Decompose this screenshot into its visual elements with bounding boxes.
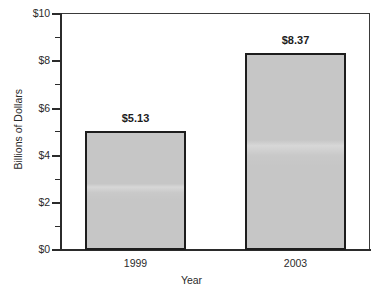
y-axis-line [60, 13, 62, 251]
y-axis-tick-label-10: $10 [33, 8, 50, 19]
y-axis-title: Billions of Dollars [13, 49, 24, 209]
y-axis-minor-tick-3 [55, 179, 61, 180]
y-axis-major-tick-8 [52, 60, 61, 62]
y-axis-tick-label-0: $0 [39, 244, 50, 255]
y-axis-minor-tick-9 [55, 37, 61, 38]
bar-chart: $10 $8 $6 $4 $2 $0 $5.13 1999 $8.37 2003… [0, 0, 383, 292]
x-axis-category-label-1999: 1999 [85, 258, 186, 269]
y-axis-major-tick-10 [52, 13, 61, 15]
bar-2003[interactable] [245, 53, 346, 250]
y-axis-minor-tick-7 [55, 84, 61, 85]
bar-1999[interactable] [85, 131, 186, 250]
y-axis-tick-label-6: $6 [39, 103, 50, 114]
y-axis-tick-label-2: $2 [39, 197, 50, 208]
y-axis-tick-label-8: $8 [39, 55, 50, 66]
y-axis-major-tick-4 [52, 155, 61, 157]
y-axis-minor-tick-5 [55, 131, 61, 132]
y-axis-major-tick-0 [52, 249, 61, 251]
y-axis-minor-tick-1 [55, 226, 61, 227]
y-axis-major-tick-2 [52, 202, 61, 204]
bar-value-label-1999: $5.13 [85, 113, 186, 124]
bar-value-label-2003: $8.37 [245, 35, 346, 46]
y-axis-tick-label-4: $4 [39, 150, 50, 161]
x-axis-category-label-2003: 2003 [245, 258, 346, 269]
x-axis-title: Year [0, 275, 383, 286]
y-axis-major-tick-6 [52, 108, 61, 110]
